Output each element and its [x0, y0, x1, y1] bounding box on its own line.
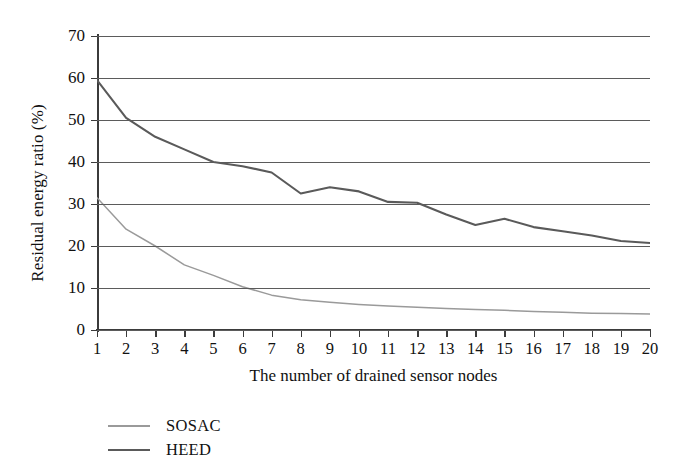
x-tick-label: 2 — [111, 340, 141, 358]
x-axis-title: The number of drained sensor nodes — [97, 366, 650, 386]
plot-area — [97, 36, 650, 330]
gridline — [97, 120, 650, 121]
y-tick-mark — [91, 204, 97, 205]
x-tick-label: 19 — [606, 340, 636, 358]
series-lines — [97, 36, 650, 330]
x-tick-label: 5 — [198, 340, 228, 358]
x-tick-label: 18 — [577, 340, 607, 358]
x-tick-mark — [621, 331, 622, 337]
x-tick-mark — [650, 331, 651, 337]
x-tick-label: 15 — [489, 340, 519, 358]
x-tick-label: 4 — [169, 340, 199, 358]
y-tick-label: 50 — [45, 111, 85, 128]
gridline — [97, 246, 650, 247]
y-tick-mark — [91, 36, 97, 37]
x-tick-label: 1 — [82, 340, 112, 358]
x-tick-mark — [330, 331, 331, 337]
x-tick-mark — [592, 331, 593, 337]
x-tick-label: 13 — [431, 340, 461, 358]
y-tick-label: 20 — [45, 237, 85, 254]
gridline — [97, 204, 650, 205]
y-tick-label: 60 — [45, 69, 85, 86]
x-tick-label: 3 — [140, 340, 170, 358]
chart-legend: SOSACHEED — [108, 414, 221, 462]
legend-swatch — [108, 425, 150, 427]
y-tick-label: 40 — [45, 153, 85, 170]
x-tick-label: 7 — [257, 340, 287, 358]
x-tick-mark — [97, 331, 98, 337]
gridline — [97, 162, 650, 163]
y-tick-label: 30 — [45, 195, 85, 212]
gridline — [97, 78, 650, 79]
x-tick-mark — [504, 331, 505, 337]
y-tick-label: 70 — [45, 27, 85, 44]
legend-label: SOSAC — [166, 416, 221, 436]
x-tick-mark — [446, 331, 447, 337]
x-tick-label: 8 — [286, 340, 316, 358]
series-line-sosac — [97, 198, 650, 314]
legend-swatch — [108, 449, 150, 452]
x-tick-mark — [184, 331, 185, 337]
x-tick-label: 9 — [315, 340, 345, 358]
y-tick-mark — [91, 246, 97, 247]
chart-figure: Residual energy ratio (%) 01020304050607… — [0, 0, 683, 470]
x-tick-label: 11 — [373, 340, 403, 358]
x-tick-mark — [417, 331, 418, 337]
y-axis-title: Residual energy ratio (%) — [28, 43, 48, 343]
x-tick-mark — [359, 331, 360, 337]
legend-label: HEED — [166, 440, 211, 460]
y-tick-mark — [91, 78, 97, 79]
x-tick-mark — [155, 331, 156, 337]
x-tick-label: 10 — [344, 340, 374, 358]
x-tick-label: 16 — [519, 340, 549, 358]
x-tick-label: 6 — [228, 340, 258, 358]
y-tick-mark — [91, 162, 97, 163]
y-tick-label: 0 — [45, 321, 85, 338]
y-tick-mark — [91, 288, 97, 289]
y-tick-label: 10 — [45, 279, 85, 296]
x-tick-mark — [213, 331, 214, 337]
gridline — [97, 36, 650, 37]
x-tick-mark — [243, 331, 244, 337]
x-tick-mark — [534, 331, 535, 337]
x-tick-mark — [475, 331, 476, 337]
gridline — [97, 288, 650, 289]
gridline — [97, 330, 650, 331]
x-tick-mark — [563, 331, 564, 337]
x-tick-mark — [301, 331, 302, 337]
x-tick-label: 12 — [402, 340, 432, 358]
legend-item: SOSAC — [108, 414, 221, 438]
x-tick-mark — [126, 331, 127, 337]
x-tick-label: 20 — [635, 340, 665, 358]
x-tick-mark — [272, 331, 273, 337]
x-tick-mark — [388, 331, 389, 337]
x-tick-label: 17 — [548, 340, 578, 358]
legend-item: HEED — [108, 438, 221, 462]
x-tick-label: 14 — [460, 340, 490, 358]
y-tick-mark — [91, 120, 97, 121]
